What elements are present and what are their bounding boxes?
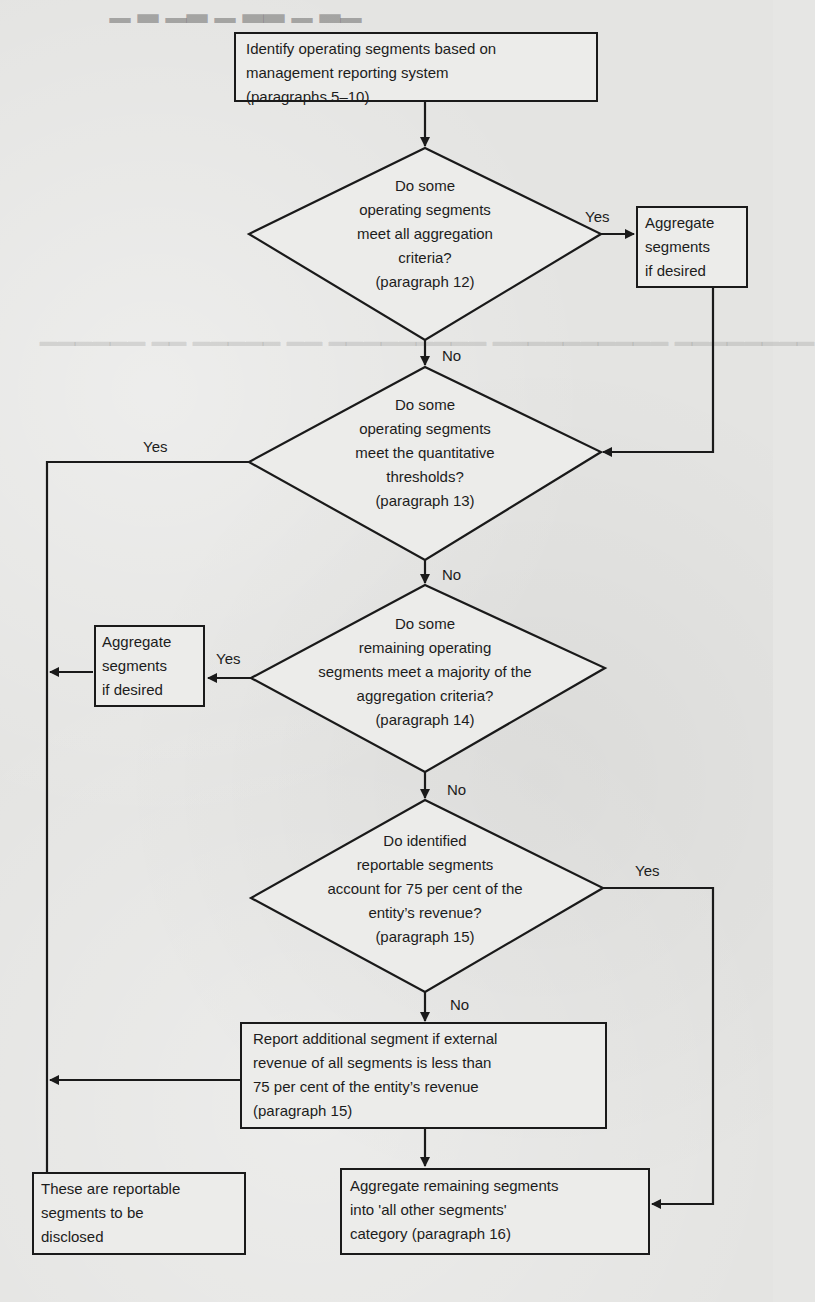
decision1-no-label: No [442,347,461,364]
decision4-line: Do identified [280,829,570,853]
all-other-line: category (paragraph 16) [350,1222,640,1246]
decision3-yes-label: Yes [216,650,240,667]
start-line: (paragraphs 5–10) [246,85,586,109]
decision4-text: Do identified reportable segments accoun… [280,829,570,949]
all-other-line: Aggregate remaining segments [350,1174,640,1198]
aggregate-box-2: Aggregate segments if desired [94,625,205,707]
aggregate1-line: if desired [645,259,739,283]
decision2-no-label: No [442,566,461,583]
all-other-line: into 'all other segments' [350,1198,640,1222]
decision3-line: (paragraph 14) [280,708,570,732]
decision2-line: (paragraph 13) [305,489,545,513]
decision2-yes-label: Yes [143,438,167,455]
decision2-line: meet the quantitative [305,441,545,465]
decision4-line: reportable segments [280,853,570,877]
aggregate1-line: segments [645,235,739,259]
reportable-line: segments to be [41,1201,237,1225]
report-additional-line: Report additional segment if external [253,1027,594,1051]
decision2-text: Do some operating segments meet the quan… [305,393,545,513]
decision3-no-label: No [447,781,466,798]
decision3-line: segments meet a majority of the [280,660,570,684]
report-additional-line: revenue of all segments is less than [253,1051,594,1075]
decision2-line: Do some [305,393,545,417]
decision1-line: meet all aggregation [305,222,545,246]
reportable-line: These are reportable [41,1177,237,1201]
decision2-line: operating segments [305,417,545,441]
decision2-line: thresholds? [305,465,545,489]
aggregate1-line: Aggregate [645,211,739,235]
decision3-line: aggregation criteria? [280,684,570,708]
decision3-text: Do some remaining operating segments mee… [280,612,570,732]
decision4-yes-label: Yes [635,862,659,879]
report-additional-line: (paragraph 15) [253,1099,594,1123]
decision4-line: entity’s revenue? [280,901,570,925]
decision4-no-label: No [450,996,469,1013]
aggregate2-line: Aggregate [102,630,197,654]
decision4-line: account for 75 per cent of the [280,877,570,901]
decision1-line: (paragraph 12) [305,270,545,294]
reportable-segments-box: These are reportable segments to be disc… [32,1172,246,1255]
decision1-line: criteria? [305,246,545,270]
decision3-line: Do some [280,612,570,636]
decision1-line: operating segments [305,198,545,222]
decision4-line: (paragraph 15) [280,925,570,949]
decision3-line: remaining operating [280,636,570,660]
reportable-line: disclosed [41,1225,237,1249]
start-line: management reporting system [246,61,586,85]
decision1-yes-label: Yes [585,208,609,225]
decision1-line: Do some [305,174,545,198]
report-additional-line: 75 per cent of the entity’s revenue [253,1075,594,1099]
start-line: Identify operating segments based on [246,37,586,61]
aggregate2-line: if desired [102,678,197,702]
aggregate2-line: segments [102,654,197,678]
report-additional-box: Report additional segment if external re… [240,1022,607,1129]
aggregate-box-1: Aggregate segments if desired [636,206,748,288]
decision1-text: Do some operating segments meet all aggr… [305,174,545,294]
start-box: Identify operating segments based on man… [234,32,598,102]
all-other-segments-box: Aggregate remaining segments into 'all o… [340,1168,650,1255]
